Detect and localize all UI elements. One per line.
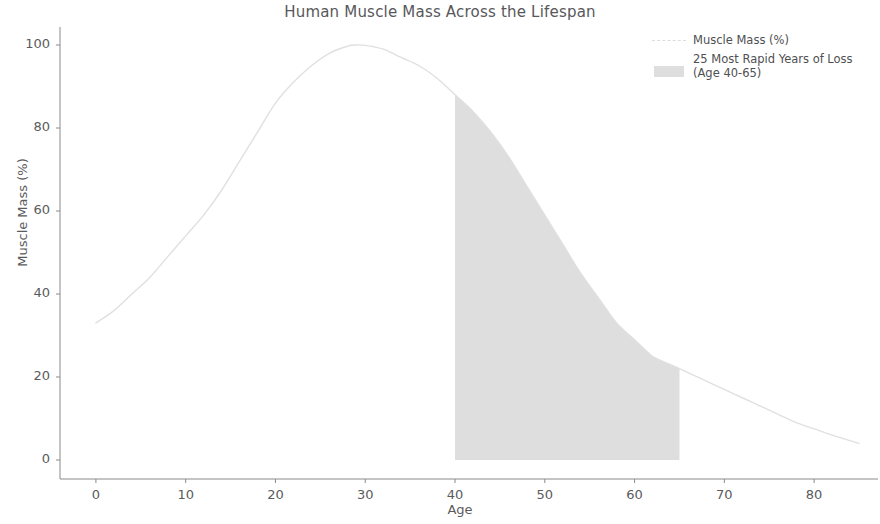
y-tick-label: 0 [4,451,50,466]
legend-line-marker-icon [652,33,686,48]
y-tick-label: 60 [4,202,50,217]
y-tick-label: 80 [4,119,50,134]
y-tick-label: 20 [4,368,50,383]
y-tick-label: 100 [4,36,50,51]
legend-label-rapid-loss: 25 Most Rapid Years of Loss (Age 40-65) [693,52,853,80]
shaded-region-rapid-loss [455,95,679,460]
x-tick-label: 20 [255,487,295,502]
y-tick-label: 40 [4,285,50,300]
chart-legend: Muscle Mass (%) 25 Most Rapid Years of L… [652,33,876,84]
x-tick-label: 30 [345,487,385,502]
x-tick-label: 80 [794,487,834,502]
legend-item-muscle-mass: Muscle Mass (%) [652,33,876,48]
x-tick-label: 10 [166,487,206,502]
x-tick-label: 60 [615,487,655,502]
x-tick-label: 0 [76,487,116,502]
legend-patch-marker-icon [652,52,686,67]
x-tick-label: 50 [525,487,565,502]
chart-figure: Human Muscle Mass Across the Lifespan Mu… [0,0,880,524]
x-axis-label: Age [60,502,860,517]
legend-label-muscle-mass: Muscle Mass (%) [693,33,789,47]
x-tick-label: 40 [435,487,475,502]
x-tick-label: 70 [704,487,744,502]
legend-item-rapid-loss: 25 Most Rapid Years of Loss (Age 40-65) [652,52,876,80]
